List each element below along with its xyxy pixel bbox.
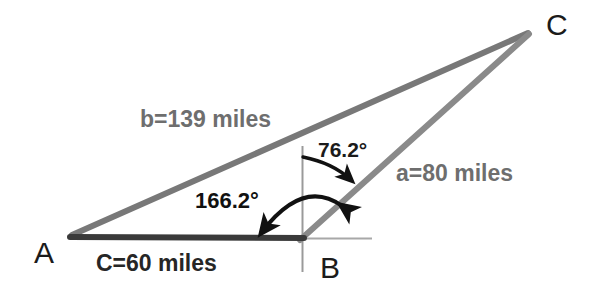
side-label-b: b=139 miles (140, 108, 271, 131)
vertex-label-c: C (546, 10, 568, 40)
side-label-a: a=80 miles (396, 162, 513, 185)
triangle-diagram: A B C b=139 miles a=80 miles C=60 miles … (0, 0, 593, 300)
side-a-line (300, 34, 529, 240)
triangle-figure-canvas (0, 0, 593, 300)
side-label-c: C=60 miles (96, 252, 217, 275)
angle-label-76: 76.2° (318, 139, 367, 160)
vertex-label-b: B (320, 253, 340, 283)
angle-label-166: 166.2° (195, 190, 259, 212)
side-b-line (72, 33, 528, 235)
vertex-label-a: A (34, 238, 54, 268)
side-c-line (70, 237, 304, 238)
